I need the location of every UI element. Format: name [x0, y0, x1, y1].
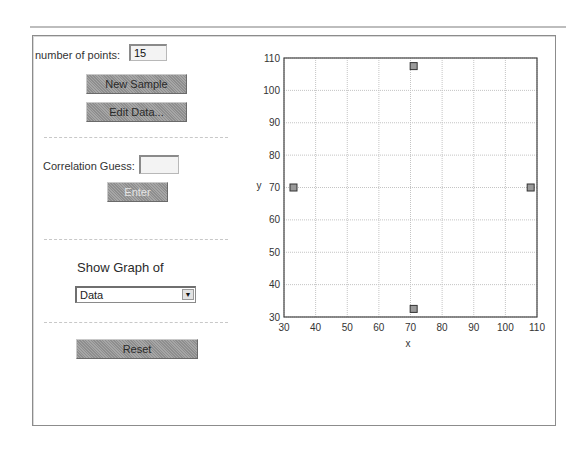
y-tick-label: 30 [269, 312, 281, 323]
x-tick-label: 50 [342, 322, 354, 333]
y-axis-label: y [257, 180, 262, 191]
data-point [410, 63, 417, 70]
y-tick-label: 90 [269, 117, 281, 128]
x-tick-label: 70 [405, 322, 417, 333]
data-point [290, 184, 297, 191]
x-tick-label: 80 [437, 322, 449, 333]
x-tick-label: 90 [468, 322, 480, 333]
x-tick-label: 40 [310, 322, 322, 333]
y-tick-label: 100 [263, 85, 280, 96]
x-axis-ticks: 30405060708090100110 [278, 322, 545, 333]
y-tick-label: 70 [269, 182, 281, 193]
data-point [527, 184, 534, 191]
y-axis-ticks: 30405060708090100110 [263, 53, 280, 323]
y-tick-label: 40 [269, 279, 281, 290]
y-tick-label: 110 [264, 53, 280, 64]
x-tick-label: 30 [278, 322, 290, 333]
data-point [410, 305, 417, 312]
y-tick-label: 60 [269, 214, 281, 225]
x-tick-label: 60 [373, 322, 385, 333]
x-axis-label: x [406, 338, 411, 349]
scatter-chart: 30405060708090100110 3040506070809010011… [0, 0, 586, 452]
x-tick-label: 110 [529, 322, 545, 333]
x-tick-label: 100 [497, 322, 514, 333]
y-tick-label: 80 [269, 150, 281, 161]
y-tick-label: 50 [269, 247, 281, 258]
chart-grid [284, 58, 537, 317]
